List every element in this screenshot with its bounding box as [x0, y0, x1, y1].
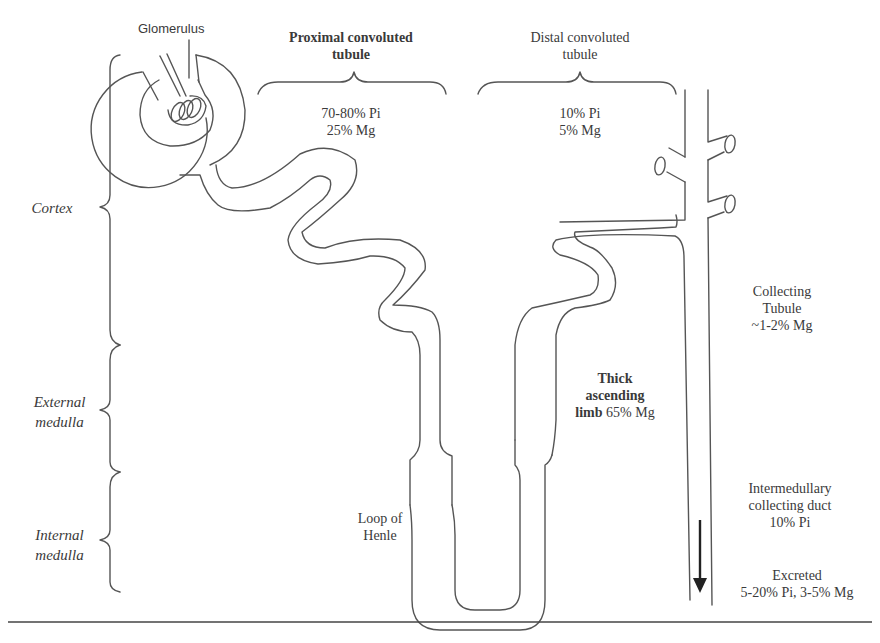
loop-of-henle — [410, 440, 552, 630]
proximal-values: 70-80% Pi 25% Mg — [286, 105, 416, 139]
excreted-line1: Excreted — [722, 567, 872, 584]
proximal-tubule — [180, 148, 452, 505]
distal-values: 10% Pi 5% Mg — [530, 105, 630, 139]
thick-ascending-limb-label: Thick ascending limb 65% Mg — [555, 370, 675, 421]
thick-limb-line1: Thick — [555, 370, 675, 387]
excreted-values: 5-20% Pi, 3-5% Mg — [722, 584, 872, 601]
proximal-tubule-subtitle: tubule — [276, 46, 426, 63]
region-internal-line1: Internal — [22, 525, 97, 545]
proximal-mg-value: 25% Mg — [286, 122, 416, 139]
proximal-tubule-label: Proximal convoluted tubule — [276, 29, 426, 63]
excreted-label: Excreted 5-20% Pi, 3-5% Mg — [722, 567, 872, 601]
glomerulus-label: Glomerulus — [138, 20, 204, 37]
distal-tubule-label: Distal convoluted tubule — [510, 29, 650, 63]
distal-mg-value: 5% Mg — [530, 122, 630, 139]
excretion-arrow — [693, 520, 707, 593]
cortex-brace — [100, 55, 120, 345]
intermedullary-line2: collecting duct — [730, 497, 850, 514]
external-medulla-brace — [100, 345, 120, 472]
loop-line2: Henle — [340, 527, 420, 544]
intermedullary-duct-label: Intermedullary collecting duct 10% Pi — [730, 480, 850, 531]
distal-tubule-title: Distal convoluted — [510, 29, 650, 46]
proximal-tubule-title: Proximal convoluted — [276, 29, 426, 46]
intermedullary-pi-value: 10% Pi — [730, 514, 850, 531]
thick-limb-line3: limb 65% Mg — [555, 404, 675, 421]
proximal-brace — [258, 72, 446, 94]
collecting-tubule-line1: Collecting — [722, 283, 842, 300]
collecting-tubule-label: Collecting Tubule ~1-2% Mg — [722, 283, 842, 334]
region-label-external-medulla: External medulla — [22, 392, 97, 432]
thick-limb-line2: ascending — [555, 387, 675, 404]
thick-limb-mg-value: 65% Mg — [606, 405, 655, 420]
region-label-internal-medulla: Internal medulla — [22, 525, 97, 565]
region-cortex-text: Cortex — [22, 198, 82, 218]
distal-brace — [478, 72, 676, 94]
region-label-cortex: Cortex — [22, 198, 82, 218]
loop-of-henle-label: Loop of Henle — [340, 510, 420, 544]
internal-medulla-brace — [100, 472, 120, 592]
collecting-duct — [560, 90, 736, 605]
region-external-line1: External — [22, 392, 97, 412]
region-external-line2: medulla — [22, 412, 97, 432]
collecting-tubule-line2: Tubule — [722, 300, 842, 317]
distal-pi-value: 10% Pi — [530, 105, 630, 122]
glomerulus-capsule — [91, 40, 245, 188]
loop-line1: Loop of — [340, 510, 420, 527]
thick-limb-line3-bold: limb — [575, 405, 602, 420]
intermedullary-line1: Intermedullary — [730, 480, 850, 497]
distal-tubule-subtitle: tubule — [510, 46, 650, 63]
region-internal-line2: medulla — [22, 545, 97, 565]
proximal-pi-value: 70-80% Pi — [286, 105, 416, 122]
collecting-tubule-mg-value: ~1-2% Mg — [722, 317, 842, 334]
